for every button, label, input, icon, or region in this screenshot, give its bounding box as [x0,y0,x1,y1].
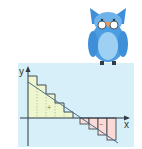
positive-sign-label: + [47,104,51,111]
y-axis-arrow-icon [26,66,31,72]
x-axis-label: x [124,120,129,130]
owl-mascot [88,8,128,65]
owl-right-eye-icon [110,21,118,29]
y-axis-label: y [19,67,24,77]
owl-left-eye-icon [98,21,106,29]
negative-sign-label: − [99,121,103,128]
